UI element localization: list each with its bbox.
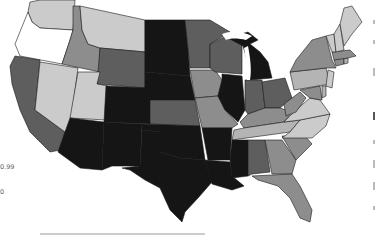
- edge-tick: [373, 206, 375, 210]
- state-KS[interactable]: [150, 100, 200, 126]
- state-ME[interactable]: [340, 6, 362, 46]
- state-MS[interactable]: [230, 140, 248, 178]
- edge-tick: [373, 20, 375, 24]
- edge-tick: [373, 40, 375, 44]
- state-ND[interactable]: [145, 20, 188, 48]
- state-RI[interactable]: [344, 58, 348, 64]
- edge-tick: [373, 68, 375, 76]
- edge-tick: [373, 182, 375, 190]
- legend-label-max: 0.99: [0, 163, 14, 171]
- legend-label-min: 0: [0, 188, 4, 196]
- state-NE[interactable]: [145, 72, 195, 100]
- bottom-scroll-bar: [40, 233, 205, 235]
- edge-tick: [373, 140, 375, 144]
- state-FL[interactable]: [252, 174, 312, 222]
- state-DE[interactable]: [322, 86, 326, 98]
- state-AR[interactable]: [202, 128, 232, 160]
- edge-tick: [373, 112, 375, 120]
- state-CO[interactable]: [104, 86, 150, 124]
- state-IA[interactable]: [190, 70, 222, 98]
- state-WY[interactable]: [97, 48, 145, 88]
- us-choropleth-map: [0, 0, 377, 236]
- state-NM[interactable]: [102, 122, 142, 170]
- edge-tick: [373, 160, 375, 168]
- state-SD[interactable]: [145, 48, 190, 76]
